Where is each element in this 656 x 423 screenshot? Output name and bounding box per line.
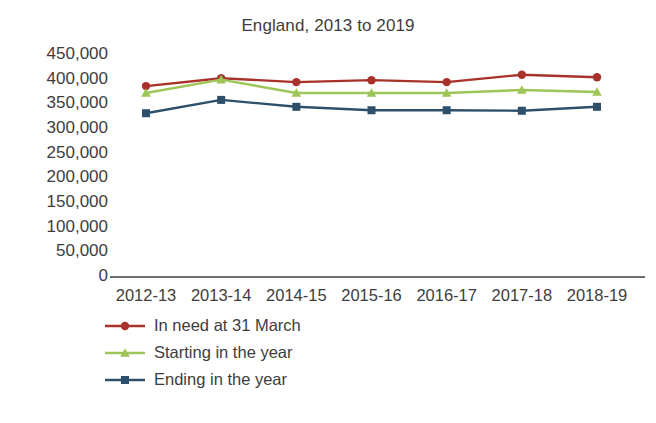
data-point-marker: [518, 107, 526, 115]
data-point-marker: [217, 96, 225, 104]
data-point-marker: [367, 76, 375, 84]
legend-label: Ending in the year: [154, 370, 287, 389]
data-point-marker: [593, 103, 601, 111]
series-3: [142, 96, 601, 117]
legend-item[interactable]: Ending in the year: [104, 366, 534, 393]
data-point-marker: [442, 78, 450, 86]
data-point-marker: [292, 103, 300, 111]
data-point-marker: [368, 106, 376, 114]
legend-label: In need at 31 March: [154, 316, 301, 335]
legend-item[interactable]: Starting in the year: [104, 339, 534, 366]
x-tick-label: 2013-14: [191, 286, 252, 305]
x-tick-label: 2014-15: [266, 286, 327, 305]
legend-swatch-square-icon: [104, 371, 146, 389]
x-axis-tick-labels: 2012-132013-142014-152015-162016-172017-…: [0, 286, 656, 310]
x-tick-label: 2018-19: [567, 286, 628, 305]
x-tick-label: 2012-13: [116, 286, 177, 305]
data-point-marker: [121, 376, 129, 384]
data-point-marker: [292, 78, 300, 86]
chart-legend: In need at 31 MarchStarting in the yearE…: [104, 312, 534, 393]
data-point-marker: [593, 73, 601, 81]
data-point-marker: [121, 321, 129, 329]
x-tick-label: 2017-18: [492, 286, 553, 305]
legend-item[interactable]: In need at 31 March: [104, 312, 534, 339]
data-point-marker: [518, 71, 526, 79]
legend-label: Starting in the year: [154, 343, 293, 362]
legend-swatch-triangle-icon: [104, 344, 146, 362]
x-tick-label: 2016-17: [416, 286, 477, 305]
line-chart: England, 2013 to 2019 450,000400,000350,…: [0, 0, 656, 423]
data-point-marker: [443, 106, 451, 114]
legend-swatch-circle-icon: [104, 317, 146, 335]
x-tick-label: 2015-16: [341, 286, 402, 305]
series-lines: [141, 71, 602, 118]
data-point-marker: [142, 109, 150, 117]
